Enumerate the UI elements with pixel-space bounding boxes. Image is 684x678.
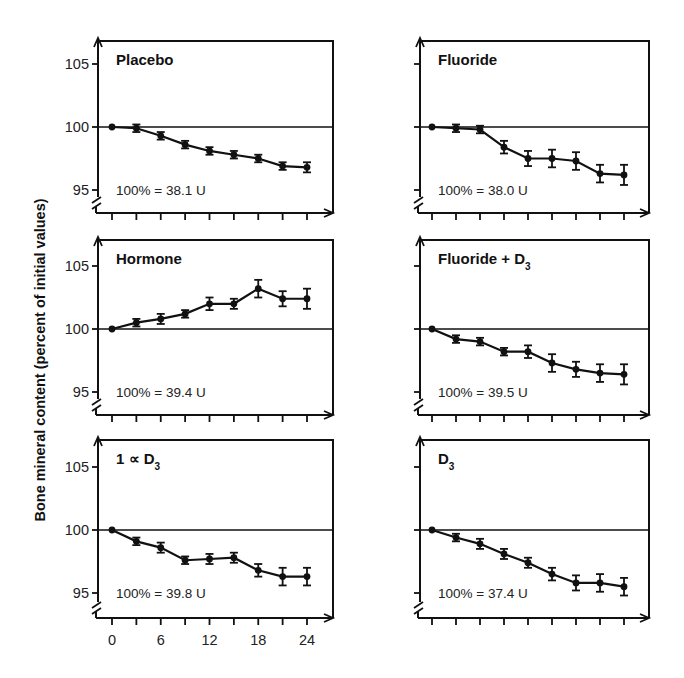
axis-break-icon bbox=[414, 197, 423, 203]
panel-title: D3 bbox=[438, 450, 455, 472]
data-point-marker bbox=[230, 554, 237, 561]
data-point-marker bbox=[157, 316, 164, 323]
data-point-marker bbox=[573, 158, 580, 165]
data-point-marker bbox=[597, 370, 604, 377]
data-point-marker bbox=[549, 155, 556, 162]
data-point-marker bbox=[621, 371, 628, 378]
panel-title: 1 ∝ D3 bbox=[116, 450, 161, 472]
panel-d3: D3100% = 37.4 U bbox=[414, 437, 649, 625]
data-point-marker bbox=[501, 144, 508, 151]
y-tick-label: 105 bbox=[65, 459, 89, 475]
axis-break-icon bbox=[92, 602, 101, 608]
data-point-marker bbox=[549, 571, 556, 578]
panel-title-subscript: 3 bbox=[155, 461, 161, 472]
data-point-marker bbox=[133, 538, 140, 545]
panel-title-text: 1 ∝ D bbox=[116, 450, 155, 467]
axis-break-icon bbox=[92, 399, 101, 405]
data-point-marker bbox=[255, 567, 262, 574]
data-point-marker bbox=[182, 310, 189, 317]
data-point-marker bbox=[230, 151, 237, 158]
data-point-marker bbox=[501, 551, 508, 558]
panel-note: 100% = 38.0 U bbox=[438, 183, 528, 198]
panel-note: 100% = 39.8 U bbox=[116, 586, 206, 601]
panel-title-text: D bbox=[438, 450, 449, 467]
data-point-marker bbox=[133, 319, 140, 326]
data-point-marker bbox=[453, 336, 460, 343]
data-point-marker bbox=[304, 573, 311, 580]
data-point-marker bbox=[573, 366, 580, 373]
panel-title-text: Placebo bbox=[116, 51, 174, 68]
y-tick-label: 95 bbox=[73, 585, 89, 601]
data-point-marker bbox=[525, 559, 532, 566]
x-tick-label: 12 bbox=[201, 632, 217, 648]
panel-fluoride: Fluoride100% = 38.0 U bbox=[414, 38, 649, 220]
data-point-marker bbox=[109, 527, 116, 534]
data-point-marker bbox=[157, 132, 164, 139]
x-tick-label: 0 bbox=[108, 632, 116, 648]
data-point-marker bbox=[206, 148, 213, 155]
panel-fluoride-d3: Fluoride + D3100% = 39.5 U bbox=[414, 237, 649, 422]
y-tick-label: 95 bbox=[73, 384, 89, 400]
data-point-marker bbox=[621, 171, 628, 178]
data-point-marker bbox=[429, 326, 436, 333]
data-point-marker bbox=[206, 300, 213, 307]
panel-note: 100% = 37.4 U bbox=[438, 586, 528, 601]
panel-title-text: Fluoride bbox=[438, 51, 497, 68]
y-tick-label: 105 bbox=[65, 258, 89, 274]
data-point-marker bbox=[477, 540, 484, 547]
y-tick-label: 95 bbox=[73, 182, 89, 198]
data-point-marker bbox=[477, 338, 484, 345]
panel-hormone: 10510095Hormone100% = 39.4 U bbox=[65, 237, 333, 422]
panel-title-subscript: 3 bbox=[525, 261, 531, 272]
data-point-marker bbox=[525, 155, 532, 162]
y-tick-label: 105 bbox=[65, 56, 89, 72]
x-tick-label: 6 bbox=[157, 632, 165, 648]
data-point-marker bbox=[182, 141, 189, 148]
data-point-marker bbox=[597, 170, 604, 177]
x-tick-label: 24 bbox=[299, 632, 315, 648]
data-point-marker bbox=[279, 573, 286, 580]
data-point-marker bbox=[109, 326, 116, 333]
y-tick-label: 100 bbox=[65, 321, 89, 337]
y-tick-label: 100 bbox=[65, 522, 89, 538]
data-point-marker bbox=[255, 285, 262, 292]
panel-note: 100% = 39.4 U bbox=[116, 385, 206, 400]
data-point-marker bbox=[429, 527, 436, 534]
data-point-marker bbox=[157, 544, 164, 551]
panel-title-subscript: 3 bbox=[449, 461, 455, 472]
data-point-marker bbox=[255, 155, 262, 162]
data-point-marker bbox=[597, 580, 604, 587]
data-point-marker bbox=[109, 124, 116, 131]
panel-note: 100% = 38.1 U bbox=[116, 183, 206, 198]
panel-note: 100% = 39.5 U bbox=[438, 385, 528, 400]
panel-title-text: Hormone bbox=[116, 250, 182, 267]
data-point-marker bbox=[453, 125, 460, 132]
panel-title: Fluoride bbox=[438, 51, 497, 68]
data-point-marker bbox=[549, 360, 556, 367]
x-tick-label: 18 bbox=[250, 632, 266, 648]
data-point-marker bbox=[621, 583, 628, 590]
data-point-marker bbox=[133, 125, 140, 132]
panel-title: Fluoride + D3 bbox=[438, 250, 531, 272]
data-point-marker bbox=[477, 126, 484, 133]
data-point-marker bbox=[501, 348, 508, 355]
panel-title-text: Fluoride + D bbox=[438, 250, 525, 267]
data-point-marker bbox=[206, 556, 213, 563]
panel-title: Placebo bbox=[116, 51, 174, 68]
chart-figure: 10510095Placebo100% = 38.1 UFluoride100%… bbox=[0, 0, 684, 678]
data-point-marker bbox=[182, 557, 189, 564]
axis-break-icon bbox=[414, 602, 423, 608]
data-point-marker bbox=[279, 163, 286, 170]
axis-break-icon bbox=[414, 399, 423, 405]
data-point-marker bbox=[453, 534, 460, 541]
axis-break-icon bbox=[92, 197, 101, 203]
y-tick-label: 100 bbox=[65, 119, 89, 135]
data-point-marker bbox=[230, 300, 237, 307]
data-point-marker bbox=[429, 124, 436, 131]
data-point-marker bbox=[304, 164, 311, 171]
panel-placebo: 10510095Placebo100% = 38.1 U bbox=[65, 38, 333, 220]
data-point-marker bbox=[573, 580, 580, 587]
data-point-marker bbox=[279, 295, 286, 302]
panel-title: Hormone bbox=[116, 250, 182, 267]
data-point-marker bbox=[525, 348, 532, 355]
